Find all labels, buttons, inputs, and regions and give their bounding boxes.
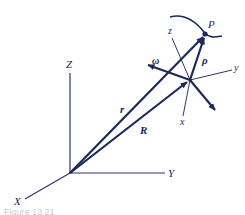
omega-vector	[148, 65, 190, 80]
fixed-axes	[25, 73, 165, 199]
label-X-fixed: X	[14, 196, 21, 207]
label-omega: ω	[152, 56, 159, 66]
moving-origin	[188, 78, 191, 81]
label-R: R	[140, 125, 147, 136]
label-y-moving: y	[234, 63, 238, 73]
vectors	[70, 37, 215, 173]
x-axis-fixed	[25, 173, 70, 199]
r-vector	[70, 37, 203, 173]
label-r: r	[120, 104, 124, 115]
label-Y-fixed: Y	[168, 168, 174, 179]
figure-caption: Figure 13.21	[4, 207, 244, 215]
point-P	[202, 31, 207, 36]
label-x-moving: x	[180, 117, 184, 127]
R-dot-vector	[190, 80, 215, 110]
label-P: P	[208, 19, 215, 30]
label-rho: ρ	[202, 55, 208, 66]
y-axis-moving	[190, 70, 232, 80]
relative-motion-diagram: Z Y X z y x P r R ρ ω R Figure 13.21	[0, 0, 245, 215]
R-vector	[70, 82, 187, 173]
label-z-moving: z	[168, 26, 172, 36]
label-Z-fixed: Z	[66, 59, 72, 70]
